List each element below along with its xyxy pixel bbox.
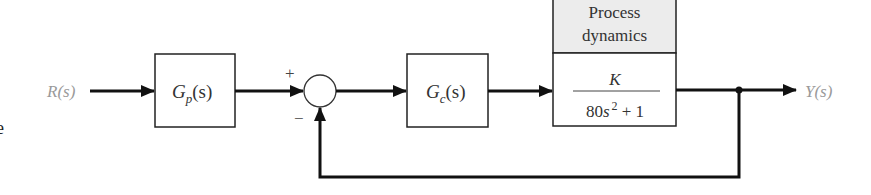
process-block: Process dynamics K 80s2 + 1 bbox=[553, 0, 676, 126]
process-transfer-function-box bbox=[553, 53, 676, 126]
controller-block: Gc(s) bbox=[407, 54, 488, 127]
block-diagram: e R(s) Gp(s) + − Gc(s) Process dynamics … bbox=[0, 0, 871, 195]
edge-artifact-text: e bbox=[0, 118, 4, 138]
minus-sign: − bbox=[294, 109, 304, 128]
process-numerator: K bbox=[608, 70, 622, 89]
prefilter-block: Gp(s) bbox=[155, 54, 235, 127]
summing-junction bbox=[304, 75, 336, 107]
output-signal-label: Y(s) bbox=[805, 82, 833, 101]
input-signal-label: R(s) bbox=[46, 82, 76, 101]
process-header-line1: Process bbox=[589, 3, 641, 22]
plus-sign: + bbox=[285, 64, 295, 83]
process-header-line2: dynamics bbox=[582, 26, 647, 45]
